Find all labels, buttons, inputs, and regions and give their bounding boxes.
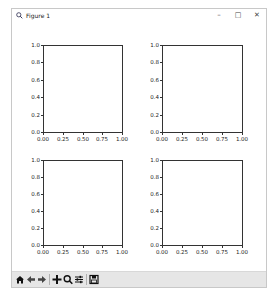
y-tick-label: 0.0 — [26, 242, 40, 248]
x-tick-mark — [162, 246, 163, 248]
x-tick-mark — [83, 133, 84, 135]
x-tick-label: 0.75 — [94, 136, 110, 142]
maximize-button[interactable]: □ — [231, 10, 245, 21]
y-tick-mark — [160, 177, 162, 178]
toolbar-separator — [49, 274, 50, 285]
x-tick-mark — [122, 133, 123, 135]
figure-window: Figure 1 – □ ✕ 0.00.20.40.60.81.00.000.2… — [11, 8, 267, 288]
x-tick-label: 0.25 — [55, 136, 71, 142]
x-tick-label: 1.00 — [234, 249, 250, 255]
y-tick-mark — [41, 194, 43, 195]
y-tick-label: 0.6 — [26, 191, 40, 197]
arrow-right-icon[interactable] — [37, 274, 47, 285]
y-tick-label: 0.6 — [26, 77, 40, 83]
minimize-button[interactable]: – — [212, 10, 226, 21]
y-tick-label: 1.0 — [26, 42, 40, 48]
y-tick-label: 0.8 — [26, 174, 40, 180]
y-tick-mark — [160, 228, 162, 229]
x-tick-label: 0.50 — [75, 249, 91, 255]
x-tick-mark — [83, 246, 84, 248]
y-tick-label: 0.8 — [145, 174, 159, 180]
y-tick-label: 0.6 — [145, 191, 159, 197]
x-tick-label: 0.25 — [55, 249, 71, 255]
y-tick-mark — [41, 228, 43, 229]
y-tick-label: 0.2 — [145, 112, 159, 118]
x-tick-mark — [43, 133, 44, 135]
y-tick-label: 1.0 — [145, 42, 159, 48]
x-tick-mark — [63, 133, 64, 135]
x-tick-label: 0.75 — [214, 136, 230, 142]
y-tick-mark — [160, 80, 162, 81]
x-tick-mark — [182, 246, 183, 248]
floppy-disk-icon[interactable] — [89, 274, 99, 285]
y-tick-mark — [41, 97, 43, 98]
x-tick-label: 0.00 — [154, 249, 170, 255]
x-tick-label: 0.50 — [194, 136, 210, 142]
y-tick-label: 0.0 — [145, 242, 159, 248]
x-tick-label: 0.00 — [35, 136, 51, 142]
y-tick-mark — [41, 160, 43, 161]
x-tick-label: 0.50 — [75, 136, 91, 142]
x-tick-label: 1.00 — [234, 136, 250, 142]
y-tick-label: 0.4 — [26, 208, 40, 214]
x-tick-label: 0.50 — [194, 249, 210, 255]
x-tick-mark — [202, 246, 203, 248]
x-tick-mark — [242, 133, 243, 135]
window-title: Figure 1 — [26, 11, 50, 20]
y-tick-label: 1.0 — [145, 157, 159, 163]
y-tick-mark — [41, 211, 43, 212]
y-tick-mark — [160, 160, 162, 161]
sliders-icon[interactable] — [74, 274, 84, 285]
x-tick-mark — [43, 246, 44, 248]
subplot-axes-top-left[interactable] — [43, 45, 123, 133]
y-tick-label: 1.0 — [26, 157, 40, 163]
y-tick-label: 0.0 — [26, 129, 40, 135]
matplotlib-app-icon — [16, 12, 23, 19]
x-tick-mark — [222, 133, 223, 135]
arrow-left-icon[interactable] — [26, 274, 36, 285]
y-tick-mark — [160, 62, 162, 63]
y-tick-mark — [160, 115, 162, 116]
subplot-axes-bottom-left[interactable] — [43, 160, 123, 246]
x-tick-label: 0.75 — [94, 249, 110, 255]
x-tick-label: 1.00 — [114, 136, 130, 142]
y-tick-label: 0.2 — [145, 225, 159, 231]
title-bar[interactable]: Figure 1 – □ ✕ — [12, 9, 266, 23]
y-tick-mark — [160, 45, 162, 46]
y-tick-mark — [160, 194, 162, 195]
close-button[interactable]: ✕ — [250, 10, 264, 21]
y-tick-label: 0.4 — [145, 94, 159, 100]
x-tick-mark — [222, 246, 223, 248]
subplot-axes-bottom-right[interactable] — [162, 160, 243, 246]
move-icon[interactable] — [52, 274, 62, 285]
figure-canvas[interactable]: 0.00.20.40.60.81.00.000.250.500.751.000.… — [12, 23, 266, 272]
y-tick-mark — [41, 45, 43, 46]
y-tick-label: 0.2 — [26, 225, 40, 231]
x-tick-mark — [162, 133, 163, 135]
y-tick-mark — [160, 211, 162, 212]
y-tick-label: 0.8 — [145, 59, 159, 65]
y-tick-mark — [41, 115, 43, 116]
y-tick-label: 0.4 — [26, 94, 40, 100]
y-tick-label: 0.6 — [145, 77, 159, 83]
y-tick-label: 0.4 — [145, 208, 159, 214]
y-tick-label: 0.2 — [26, 112, 40, 118]
toolbar-separator — [86, 274, 87, 285]
x-tick-mark — [102, 246, 103, 248]
x-tick-label: 0.25 — [174, 249, 190, 255]
x-tick-label: 0.00 — [154, 136, 170, 142]
x-tick-mark — [202, 133, 203, 135]
y-tick-mark — [41, 177, 43, 178]
y-tick-mark — [160, 97, 162, 98]
y-tick-mark — [41, 80, 43, 81]
navigation-toolbar — [12, 271, 266, 287]
home-icon[interactable] — [15, 274, 25, 285]
x-tick-mark — [102, 133, 103, 135]
y-tick-label: 0.8 — [26, 59, 40, 65]
x-tick-mark — [242, 246, 243, 248]
subplot-axes-top-right[interactable] — [162, 45, 243, 133]
x-tick-mark — [182, 133, 183, 135]
y-tick-mark — [41, 62, 43, 63]
x-tick-mark — [63, 246, 64, 248]
magnifier-icon[interactable] — [63, 274, 73, 285]
